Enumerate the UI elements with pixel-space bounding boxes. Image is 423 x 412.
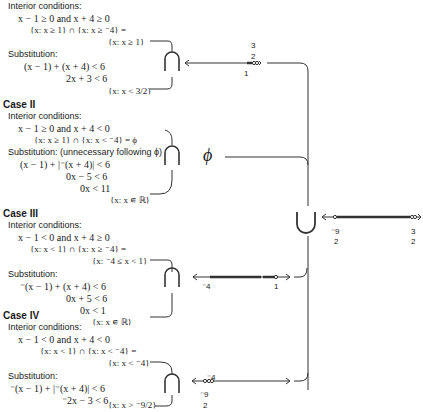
case1-intersection-icon (165, 52, 179, 71)
case2-connector (225, 157, 308, 165)
union-icon (297, 212, 315, 233)
case2-intersection-icon (165, 146, 179, 165)
case3-connector (294, 268, 307, 277)
case1-connector (267, 63, 308, 206)
case4-intersection-icon (165, 374, 179, 393)
diagram-lines (0, 0, 423, 412)
case4-connector (294, 373, 308, 381)
case1-bracket-top (150, 41, 172, 52)
case1-bracket-bottom (150, 77, 172, 89)
